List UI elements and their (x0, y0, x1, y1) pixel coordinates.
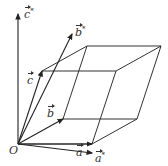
vector-b-star-symbol: b (75, 26, 82, 39)
reciprocal-lattice-diagram: O a b c a* b* c* (0, 0, 168, 166)
vector-arrow-accent (25, 7, 30, 8)
vector-arrow-accent (48, 106, 54, 107)
vector-b-star-label: b* (75, 26, 86, 38)
vector-a-star-symbol: a (95, 152, 102, 165)
vector-b-symbol: b (47, 107, 54, 120)
vector-arrow-accent (28, 73, 33, 74)
vector-arrow-accent (96, 151, 102, 152)
origin-label: O (9, 145, 18, 156)
vector-arrow-accent (77, 145, 83, 146)
vector-c-star-label: c* (24, 8, 34, 20)
vector-a-label: a (76, 147, 83, 158)
vector-a-star-label: a* (95, 152, 105, 164)
vector-c-symbol: c (27, 74, 33, 87)
vector-b-star-arrow (18, 34, 72, 144)
vector-arrow-accent (76, 25, 82, 26)
vector-c-star-symbol: c (24, 8, 30, 21)
vector-a-symbol: a (76, 146, 83, 159)
vector-c-label: c (27, 75, 33, 86)
vector-b-label: b (47, 108, 54, 119)
